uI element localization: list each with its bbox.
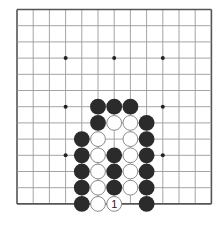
white-stone[interactable]	[91, 197, 106, 212]
white-stone-icon	[123, 180, 138, 195]
white-stone-icon	[91, 164, 106, 179]
white-stone[interactable]	[123, 148, 138, 163]
star-point	[161, 153, 165, 157]
white-stone[interactable]	[123, 180, 138, 195]
go-board[interactable]: 1	[0, 0, 223, 226]
black-stone-icon	[90, 115, 106, 131]
white-stone-icon	[91, 132, 106, 147]
white-stone[interactable]	[91, 180, 106, 195]
black-stone-icon	[139, 180, 155, 196]
black-stone-icon	[139, 115, 155, 131]
black-stone[interactable]	[74, 147, 90, 163]
white-stone-icon	[123, 132, 138, 147]
white-stone-icon	[123, 116, 138, 131]
white-stone-icon	[123, 164, 138, 179]
black-stone[interactable]	[106, 99, 122, 115]
white-stone-icon	[91, 180, 106, 195]
black-stone[interactable]	[139, 164, 155, 180]
black-stone-icon	[122, 99, 138, 115]
stones-layer: 1	[74, 99, 155, 212]
star-point	[64, 105, 68, 109]
white-stone[interactable]: 1	[107, 197, 122, 212]
black-stone[interactable]	[74, 180, 90, 196]
star-point	[112, 56, 116, 60]
black-stone[interactable]	[139, 131, 155, 147]
black-stone-icon	[90, 99, 106, 115]
white-stone-icon	[123, 148, 138, 163]
black-stone[interactable]	[74, 196, 90, 212]
white-stone-icon	[91, 148, 106, 163]
move-number-label: 1	[111, 198, 117, 210]
black-stone-icon	[106, 147, 122, 163]
black-stone-icon	[74, 147, 90, 163]
black-stone[interactable]	[74, 164, 90, 180]
white-stone[interactable]	[91, 164, 106, 179]
black-stone-icon	[139, 147, 155, 163]
black-stone-icon	[74, 180, 90, 196]
white-stone[interactable]	[123, 164, 138, 179]
black-stone[interactable]	[106, 147, 122, 163]
black-stone-icon	[106, 180, 122, 196]
black-stone[interactable]	[74, 131, 90, 147]
white-stone[interactable]	[123, 116, 138, 131]
black-stone[interactable]	[139, 196, 155, 212]
black-stone-icon	[74, 196, 90, 212]
black-stone[interactable]	[139, 115, 155, 131]
black-stone-icon	[106, 164, 122, 180]
black-stone[interactable]	[122, 99, 138, 115]
black-stone-icon	[139, 196, 155, 212]
black-stone[interactable]	[90, 115, 106, 131]
white-stone[interactable]	[123, 132, 138, 147]
black-stone[interactable]	[90, 99, 106, 115]
black-stone-icon	[139, 164, 155, 180]
star-point	[161, 56, 165, 60]
star-point	[161, 105, 165, 109]
black-stone[interactable]	[139, 147, 155, 163]
white-stone[interactable]	[107, 116, 122, 131]
black-stone[interactable]	[106, 164, 122, 180]
white-stone[interactable]	[91, 148, 106, 163]
white-stone-icon	[107, 116, 122, 131]
white-stone-icon	[91, 197, 106, 212]
white-stone[interactable]	[91, 132, 106, 147]
black-stone[interactable]	[139, 180, 155, 196]
black-stone-icon	[74, 131, 90, 147]
black-stone[interactable]	[106, 180, 122, 196]
black-stone-icon	[139, 131, 155, 147]
black-stone-icon	[106, 99, 122, 115]
star-point	[64, 153, 68, 157]
black-stone-icon	[74, 164, 90, 180]
star-point	[64, 56, 68, 60]
